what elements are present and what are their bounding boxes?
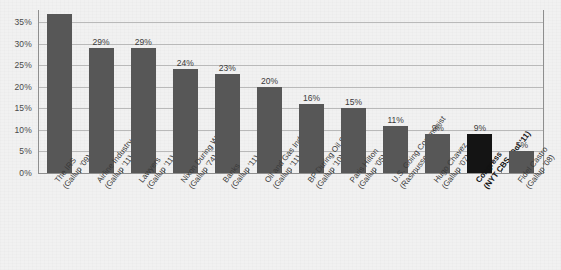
- bar-value-label: 11%: [388, 115, 404, 125]
- bar[interactable]: [131, 48, 156, 173]
- bar[interactable]: [47, 14, 72, 173]
- bar-value-label: 23%: [219, 63, 236, 73]
- bar-value-label: 29%: [93, 37, 110, 47]
- y-axis-tick-label: 5%: [0, 146, 32, 156]
- y-axis-tick-label: 25%: [0, 60, 32, 70]
- y-axis-tick-label: 30%: [0, 39, 32, 49]
- gridline: [38, 22, 543, 23]
- y-axis-tick-label: 10%: [0, 125, 32, 135]
- bar-chart: 0%5%10%15%20%25%30%35%The IRS(Gallup '09…: [0, 0, 561, 270]
- y-axis-tick-label: 20%: [0, 82, 32, 92]
- gridline: [38, 87, 543, 88]
- bar[interactable]: [89, 48, 114, 173]
- gridline: [38, 130, 543, 131]
- bar-value-label: 15%: [345, 97, 362, 107]
- y-axis-tick-label: 0%: [0, 168, 32, 178]
- y-axis-tick-label: 15%: [0, 103, 32, 113]
- bar[interactable]: [173, 69, 198, 173]
- bar-value-label: 24%: [177, 58, 194, 68]
- bar-value-label: 20%: [261, 76, 278, 86]
- bar-value-label: 9%: [432, 123, 444, 133]
- bar-value-label: 5%: [516, 140, 528, 150]
- bar-value-label: 9%: [474, 123, 486, 133]
- gridline: [38, 108, 543, 109]
- bar-value-label: 29%: [135, 37, 152, 47]
- gridline: [38, 44, 543, 45]
- y-axis-line: [38, 10, 39, 174]
- bar-value-label: 16%: [303, 93, 320, 103]
- y-axis-tick-label: 35%: [0, 17, 32, 27]
- gridline: [38, 65, 543, 66]
